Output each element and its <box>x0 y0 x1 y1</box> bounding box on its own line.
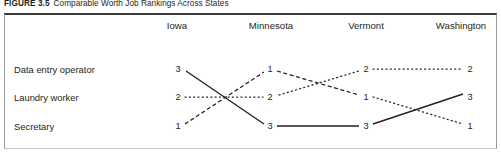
data-point-minnesota-secretary: 3 <box>267 121 272 131</box>
column-header-vermont: Vermont <box>348 20 384 31</box>
figure-number: FIGURE 3.5 <box>4 0 50 8</box>
figure-caption: FIGURE 3.5Comparable Worth Job Rankings … <box>4 0 497 13</box>
figure-container: FIGURE 3.5Comparable Worth Job Rankings … <box>0 0 501 153</box>
data-point-minnesota-laundry-worker: 2 <box>267 92 272 102</box>
row-label-secretary: Secretary <box>14 121 54 132</box>
data-point-washington-data-entry-operator: 2 <box>467 64 472 74</box>
data-point-vermont-laundry-worker: 1 <box>363 92 368 102</box>
column-header-minnesota: Minnesota <box>249 20 293 31</box>
row-label-laundry-worker: Laundry worker <box>14 92 79 103</box>
column-header-iowa: Iowa <box>167 20 187 31</box>
data-point-washington-laundry-worker: 3 <box>467 92 472 102</box>
plot-frame <box>4 13 497 149</box>
column-header-washington: Washington <box>436 20 486 31</box>
data-point-iowa-data-entry-operator: 3 <box>175 64 180 74</box>
data-point-minnesota-data-entry-operator: 1 <box>267 64 272 74</box>
data-point-iowa-laundry-worker: 2 <box>175 92 180 102</box>
figure-title: Comparable Worth Job Rankings Across Sta… <box>54 0 229 8</box>
data-point-vermont-data-entry-operator: 2 <box>363 64 368 74</box>
row-label-data-entry-operator: Data entry operator <box>14 64 95 75</box>
data-point-vermont-secretary: 3 <box>363 121 368 131</box>
data-point-washington-secretary: 1 <box>467 121 472 131</box>
data-point-iowa-secretary: 1 <box>175 121 180 131</box>
